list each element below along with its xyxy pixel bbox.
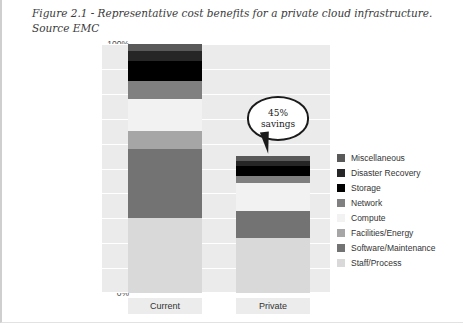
legend-label: Storage: [351, 183, 381, 193]
bar-segment[interactable]: [128, 131, 202, 148]
bar-segment[interactable]: [236, 176, 310, 183]
legend-label: Disaster Recovery: [351, 168, 420, 178]
bar-segment[interactable]: [236, 183, 310, 210]
bar-segment[interactable]: [128, 44, 202, 51]
caption-line-2: Source EMC: [32, 21, 452, 36]
bar-segment[interactable]: [236, 161, 310, 166]
bar-segment[interactable]: [128, 99, 202, 131]
legend-item[interactable]: Miscellaneous: [337, 150, 463, 165]
savings-callout: 45% savings: [247, 96, 305, 137]
legend-item[interactable]: Network: [337, 195, 463, 210]
legend-swatch-icon: [337, 184, 345, 192]
bar-segment[interactable]: [236, 156, 310, 161]
bar-current[interactable]: [128, 44, 202, 293]
bar-segment[interactable]: [128, 81, 202, 98]
legend-swatch-icon: [337, 169, 345, 177]
legend-item[interactable]: Compute: [337, 210, 463, 225]
bar-private[interactable]: [236, 156, 310, 293]
legend-label: Compute: [351, 213, 386, 223]
legend-swatch-icon: [337, 244, 345, 252]
legend-item[interactable]: Storage: [337, 180, 463, 195]
bar-segment[interactable]: [236, 166, 310, 176]
legend-swatch-icon: [337, 214, 345, 222]
callout-bubble: 45% savings: [247, 96, 309, 141]
legend-item[interactable]: Software/Maintenance: [337, 240, 463, 255]
legend-swatch-icon: [337, 154, 345, 162]
category-label-current: Current: [128, 298, 202, 314]
bar-segment[interactable]: [128, 51, 202, 61]
bar-segment[interactable]: [128, 218, 202, 293]
legend-label: Staff/Process: [351, 258, 401, 268]
legend-swatch-icon: [337, 199, 345, 207]
chart-legend: MiscellaneousDisaster RecoveryStorageNet…: [337, 150, 463, 270]
legend-label: Facilities/Energy: [351, 228, 413, 238]
legend-item[interactable]: Facilities/Energy: [337, 225, 463, 240]
plot-area: [102, 44, 330, 293]
legend-label: Network: [351, 198, 382, 208]
callout-value: 45%: [268, 108, 288, 119]
legend-label: Miscellaneous: [351, 153, 405, 163]
bar-segment[interactable]: [236, 211, 310, 238]
bar-segment[interactable]: [236, 238, 310, 293]
legend-swatch-icon: [337, 229, 345, 237]
legend-item[interactable]: Staff/Process: [337, 255, 463, 270]
bar-segment[interactable]: [128, 149, 202, 219]
figure-caption: Figure 2.1 - Representative cost benefit…: [32, 6, 452, 35]
callout-label: savings: [261, 119, 295, 130]
figure-page: Figure 2.1 - Representative cost benefit…: [0, 0, 463, 323]
legend-swatch-icon: [337, 259, 345, 267]
legend-label: Software/Maintenance: [351, 243, 436, 253]
bar-segment[interactable]: [128, 61, 202, 81]
category-label-private: Private: [236, 298, 310, 314]
caption-line-1: Figure 2.1 - Representative cost benefit…: [32, 7, 432, 19]
legend-item[interactable]: Disaster Recovery: [337, 165, 463, 180]
